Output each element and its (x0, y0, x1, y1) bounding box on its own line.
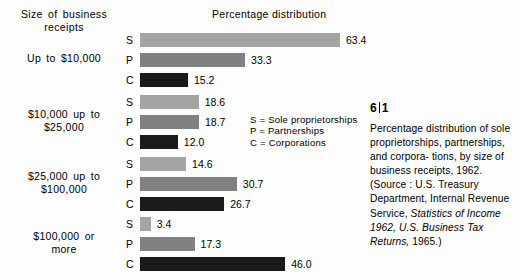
chart-title: Percentage distribution (212, 8, 326, 21)
figure-number-major: 6 (370, 101, 377, 115)
bar-c (140, 73, 188, 87)
caption-line-10: 1965.) (412, 236, 442, 247)
bar-series-key-c: C (126, 196, 138, 212)
bar-series-key-p: P (126, 176, 138, 192)
bar-c (140, 257, 285, 271)
legend-item-partnerships: P = Partnerships (250, 125, 357, 136)
figure-caption: Percentage distribution of sole propriet… (370, 122, 516, 249)
group-label-0-line-1: Up to $10,000 (0, 52, 128, 65)
group-label-3: $100,000 ormore (0, 230, 128, 255)
bar-series-key-s: S (126, 156, 138, 172)
bar-series-key-s: S (126, 32, 138, 48)
bar-series-key-p: P (126, 236, 138, 252)
bar-p (140, 177, 237, 191)
bar-p (140, 237, 195, 251)
bar-series-key-c: C (126, 134, 138, 150)
bar-p (140, 115, 199, 129)
legend: S = Sole proprietorships P = Partnership… (250, 114, 357, 148)
bar-value-label: 18.6 (205, 94, 225, 110)
bar-c (140, 135, 178, 149)
bar-series-key-p: P (126, 52, 138, 68)
group-label-3-line-1: $100,000 or (0, 230, 128, 243)
bar-s (140, 157, 186, 171)
figure-number-divider (379, 102, 380, 113)
bar-series-key-c: C (126, 256, 138, 272)
group-label-0: Up to $10,000 (0, 52, 128, 65)
bar-s (140, 33, 340, 47)
bar-value-label: 30.7 (243, 176, 263, 192)
figure-number-minor: 1 (382, 101, 389, 115)
bar-value-label: 63.4 (346, 32, 366, 48)
group-label-1-line-1: $10,000 up to (0, 108, 128, 121)
bar-value-label: 3.4 (157, 216, 172, 232)
bar-value-label: 17.3 (201, 236, 221, 252)
group-label-3-line-2: more (0, 243, 128, 256)
bar-series-key-s: S (126, 216, 138, 232)
legend-item-corporations: C = Corporations (250, 137, 357, 148)
figure-panel: Size of business receipts Percentage dis… (0, 0, 520, 278)
row-header-label: Size of business receipts (0, 8, 128, 34)
bar-value-label: 12.0 (184, 134, 204, 150)
group-label-1: $10,000 up to$25,000 (0, 108, 128, 133)
group-label-2: $25,000 up to$100,000 (0, 170, 128, 195)
group-label-1-line-2: $25,000 (0, 121, 128, 134)
bar-s (140, 95, 199, 109)
bar-value-label: 26.7 (230, 196, 250, 212)
bar-value-label: 18.7 (205, 114, 225, 130)
group-label-2-line-2: $100,000 (0, 183, 128, 196)
bar-value-label: 15.2 (194, 72, 214, 88)
caption-line-1: Percentage distribution of (370, 123, 488, 134)
bar-value-label: 33.3 (251, 52, 271, 68)
bar-s (140, 217, 151, 231)
bar-p (140, 53, 245, 67)
bar-c (140, 197, 224, 211)
figure-number: 61 (370, 101, 388, 115)
bar-value-label: 46.0 (291, 256, 311, 272)
bar-series-key-c: C (126, 72, 138, 88)
bar-series-key-p: P (126, 114, 138, 130)
bar-value-label: 14.6 (192, 156, 212, 172)
group-label-2-line-1: $25,000 up to (0, 170, 128, 183)
bar-series-key-s: S (126, 94, 138, 110)
legend-item-sole-proprietorships: S = Sole proprietorships (250, 114, 357, 125)
